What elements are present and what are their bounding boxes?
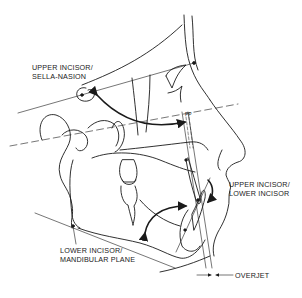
lower-apex-point: [184, 229, 186, 231]
incisor-tip-point: [197, 199, 200, 202]
nostril: [218, 150, 222, 170]
nasion-point: [193, 62, 196, 65]
symphysis: [180, 210, 200, 251]
arc-upper-lower-incisor: [208, 180, 213, 202]
label-line: UPPER INCISOR/: [229, 180, 290, 189]
label-line: SELLA-NASION: [32, 72, 93, 81]
posterior-cranium: [40, 115, 73, 228]
label-upper-incisor-sella-nasion: UPPER INCISOR/ SELLA-NASION: [32, 63, 93, 81]
lower-jaw-inner: [140, 200, 180, 226]
ptm-line-1: [132, 78, 138, 135]
label-line: OVERJET: [235, 271, 269, 280]
label-lower-incisor-mandibular-plane: LOWER INCISOR/ MANDIBULAR PLANE: [60, 246, 135, 264]
arc-lower-incisor-mp: [145, 206, 186, 233]
maxilla-outline: [120, 142, 208, 150]
lower-molar: [121, 186, 137, 225]
condyle-loop: [62, 130, 88, 151]
key-ridge: [168, 86, 182, 102]
label-overjet: OVERJET: [235, 271, 269, 280]
label-line: UPPER INCISOR/: [32, 63, 93, 72]
upper-incisor-axis: [182, 112, 206, 268]
nasal-bone-outer: [184, 15, 210, 100]
upper-molar: [120, 160, 137, 182]
cephalometric-diagram: [0, 0, 302, 298]
apex-point: [185, 159, 187, 161]
sella-turcica: [77, 88, 95, 102]
cranial-outline: [82, 25, 182, 85]
label-palatal-plane: PP: [185, 111, 192, 117]
label-line: LOWER INCISOR/: [60, 246, 135, 255]
ramus-posterior: [70, 160, 80, 228]
label-line: MANDIBULAR PLANE: [60, 255, 135, 264]
soft-tissue-profile: [210, 100, 245, 256]
sella-point: [81, 94, 84, 97]
palate-outline: [92, 153, 195, 172]
label-upper-lower-incisor: UPPER INCISOR/ LOWER INCISOR: [229, 180, 290, 198]
arc-upper-incisor-sn: [97, 95, 185, 125]
upper-incisor-axis-2: [188, 112, 212, 268]
label-line: LOWER INCISOR: [229, 189, 290, 198]
orbit-outline: [166, 65, 186, 88]
